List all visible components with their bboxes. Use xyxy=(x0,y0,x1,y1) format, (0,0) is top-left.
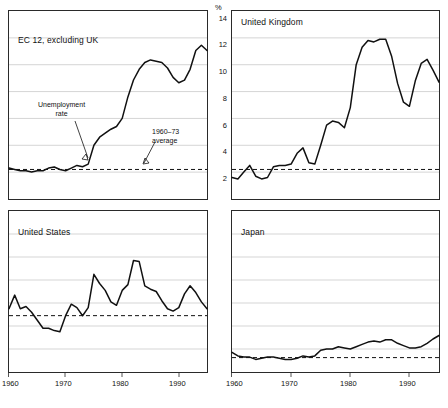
x-tick-right-1990: 1990 xyxy=(399,379,416,388)
unemployment-figure: EC 12, excluding UK Unemployment rate 19… xyxy=(0,0,448,408)
panel-title-uk: United Kingdom xyxy=(241,17,303,27)
y-tick-6: 6 xyxy=(209,121,227,130)
panel-title-us: United States xyxy=(18,227,70,237)
y-tick-10: 10 xyxy=(209,67,227,76)
panel-uk-frame xyxy=(231,10,440,200)
x-tick-left-1980: 1980 xyxy=(112,379,129,388)
panel-uk-plot xyxy=(232,11,439,199)
annotation-unemployment-rate-line2: rate xyxy=(38,109,85,118)
x-tick-left-1960: 1960 xyxy=(2,379,19,388)
annotation-unemployment-rate: Unemployment rate xyxy=(38,100,85,118)
y-axis-unit: % xyxy=(215,3,222,12)
annotation-average-line2: average xyxy=(152,136,179,145)
y-tick-14: 14 xyxy=(209,14,227,23)
x-tick-left-1970: 1970 xyxy=(55,379,72,388)
x-tick-right-1970: 1970 xyxy=(281,379,298,388)
y-tick-2: 2 xyxy=(209,174,227,183)
x-tick-right-1980: 1980 xyxy=(340,379,357,388)
y-tick-12: 12 xyxy=(209,40,227,49)
annotation-unemployment-rate-line1: Unemployment xyxy=(38,100,85,109)
panel-title-japan: Japan xyxy=(241,227,265,237)
y-tick-4: 4 xyxy=(209,147,227,156)
panel-title-ec12: EC 12, excluding UK xyxy=(18,35,98,45)
annotation-average-line1: 1960–73 xyxy=(152,127,179,136)
annotation-average: 1960–73 average xyxy=(152,127,179,145)
y-tick-8: 8 xyxy=(209,94,227,103)
x-tick-left-1990: 1990 xyxy=(169,379,186,388)
x-tick-right-1960: 1960 xyxy=(226,379,243,388)
